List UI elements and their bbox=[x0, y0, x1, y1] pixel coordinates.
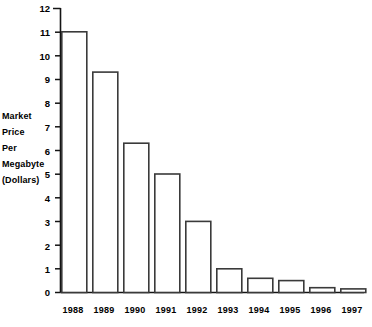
bar-1990 bbox=[124, 143, 149, 292]
bar-1992 bbox=[186, 221, 211, 292]
bar-1995 bbox=[279, 281, 304, 293]
bar-1996 bbox=[310, 288, 335, 293]
bar-1989 bbox=[93, 72, 118, 292]
bar-1994 bbox=[248, 278, 273, 292]
bar-1997 bbox=[341, 289, 366, 293]
y-axis-ticks bbox=[53, 9, 61, 293]
bar-1993 bbox=[217, 269, 242, 293]
plot-area bbox=[0, 0, 372, 327]
bar-1991 bbox=[155, 174, 180, 293]
bars-group bbox=[62, 32, 366, 293]
bar-chart: Market Price Per Megabyte (Dollars) 12 1… bbox=[0, 0, 372, 327]
bar-1988 bbox=[62, 32, 87, 293]
